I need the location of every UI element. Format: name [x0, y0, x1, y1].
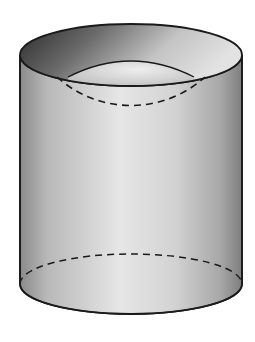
cylinder-body: [20, 55, 242, 314]
cylinder-sphere-figure: [0, 0, 255, 342]
figure-canvas: [0, 0, 255, 342]
